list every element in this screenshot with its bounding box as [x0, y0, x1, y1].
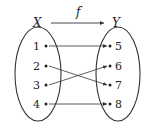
codomain-dot-5 — [109, 45, 112, 48]
domain-dot-3 — [45, 84, 48, 87]
codomain-dot-7 — [109, 84, 112, 87]
codomain-element-7: 7 — [115, 79, 122, 92]
domain-dot-2 — [45, 65, 48, 68]
domain-dot-1 — [45, 45, 48, 48]
domain-element-2: 2 — [33, 60, 40, 73]
domain-dot-4 — [45, 103, 48, 106]
domain-set-label: X — [32, 16, 42, 30]
domain-element-1: 1 — [33, 40, 40, 53]
codomain-set-label: Y — [112, 16, 121, 30]
codomain-dot-8 — [109, 103, 112, 106]
codomain-element-8: 8 — [115, 98, 122, 111]
function-mapping-diagram: X Y f 1 2 3 4 5 6 7 8 — [0, 0, 150, 133]
codomain-element-6: 6 — [115, 60, 122, 73]
domain-element-3: 3 — [33, 79, 40, 92]
domain-element-4: 4 — [33, 98, 40, 111]
function-label: f — [75, 5, 83, 19]
codomain-dot-6 — [109, 65, 112, 68]
codomain-element-5: 5 — [115, 40, 122, 53]
